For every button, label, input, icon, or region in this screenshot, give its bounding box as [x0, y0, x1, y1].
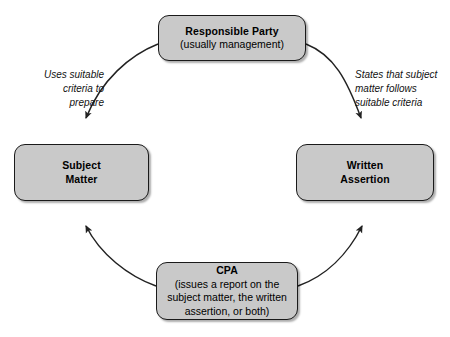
node-subject-matter-line1: Subject: [62, 159, 101, 173]
arc-responsible-to-assertion: [306, 44, 361, 118]
edge-label-uses-suitable-criteria: Uses suitable criteria to prepare: [18, 68, 104, 110]
node-written-assertion-line2: Assertion: [340, 173, 389, 187]
node-cpa: CPA (issues a report on the subject matt…: [156, 262, 298, 320]
edge-label-left-line1: Uses suitable: [18, 68, 104, 82]
node-subject-matter: Subject Matter: [14, 144, 149, 201]
node-written-assertion-line1: Written: [347, 159, 384, 173]
edge-label-left-line3: prepare: [18, 96, 104, 110]
node-cpa-line3: assertion, or both): [185, 305, 270, 319]
node-subject-matter-line2: Matter: [65, 173, 97, 187]
node-responsible-party-title: Responsible Party: [185, 25, 278, 39]
node-written-assertion: Written Assertion: [296, 144, 434, 201]
node-responsible-party-subtitle: (usually management): [180, 38, 284, 52]
node-cpa-title: CPA: [216, 264, 238, 278]
edge-label-right-line3: suitable criteria: [355, 96, 450, 110]
edge-label-right-line1: States that subject: [355, 68, 450, 82]
edge-label-left-line2: criteria to: [18, 82, 104, 96]
node-cpa-line2: subject matter, the written: [167, 291, 287, 305]
arc-cpa-to-assertion: [298, 226, 362, 286]
node-cpa-line1: (issues a report on the: [175, 278, 279, 292]
node-responsible-party: Responsible Party (usually management): [158, 15, 306, 61]
edge-label-right-line2: matter follows: [355, 82, 450, 96]
arc-cpa-to-subject: [86, 226, 156, 286]
assurance-cycle-diagram: Responsible Party (usually management) S…: [0, 0, 450, 337]
edge-label-states-that-subject-matter: States that subject matter follows suita…: [355, 68, 450, 110]
